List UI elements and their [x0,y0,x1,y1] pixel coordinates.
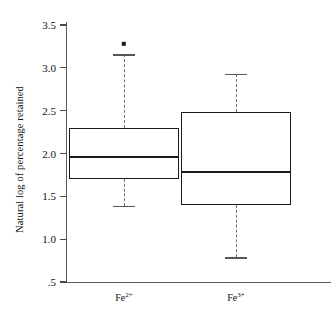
x-axis-spine [66,282,331,283]
y-tick-label: 1.0 [0,233,56,245]
y-tick-label: .5 [0,276,56,288]
y-tick-label: 3.0 [0,62,56,74]
whisker-lower [236,205,237,257]
box-plot-figure: Natural log of percentage retained 3.53.… [0,0,336,319]
x-category-label-Fe2+: Fe2+ [115,291,132,303]
y-tick-mark [60,67,67,68]
outlier-point [122,42,126,46]
whisker-cap-upper [113,54,135,56]
y-tick-mark [60,110,67,111]
y-tick-label: 2.5 [0,105,56,117]
whisker-lower [124,179,125,206]
box-Fe3+ [181,112,291,205]
y-tick-label-wrap: .5 [0,276,56,288]
y-tick-mark [60,196,67,197]
whisker-upper [236,74,237,113]
median-line-Fe2+ [69,156,179,158]
median-line-Fe3+ [181,171,291,173]
y-tick-label: 3.5 [0,19,56,31]
y-tick-label-wrap: 1.0 [0,233,56,245]
x-category-label-Fe3+: Fe3+ [227,291,244,303]
y-tick-mark [60,24,67,25]
y-tick-label: 2.0 [0,148,56,160]
whisker-cap-lower [113,206,135,208]
y-tick-mark [60,239,67,240]
y-tick-label: 1.5 [0,190,56,202]
box-Fe2+ [69,128,179,179]
whisker-cap-lower [225,257,247,259]
y-tick-mark [60,153,67,154]
whisker-cap-upper [225,74,247,76]
y-tick-label-wrap: 3.5 [0,19,56,31]
y-tick-label-wrap: 1.5 [0,190,56,202]
y-axis-title: Natural log of percentage retained [8,0,30,319]
y-tick-label-wrap: 2.0 [0,148,56,160]
y-tick-label-wrap: 3.0 [0,62,56,74]
whisker-upper [124,54,125,128]
y-tick-label-wrap: 2.5 [0,105,56,117]
y-tick-mark [60,281,67,282]
